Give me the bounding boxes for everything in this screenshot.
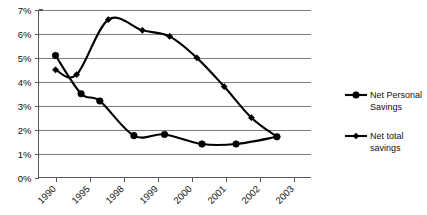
y-tick-label: 2% <box>18 125 32 136</box>
chart-canvas: 0%1%2%3%4%5%6%7% 19901995199819992000200… <box>0 0 427 215</box>
x-tick-label: 1998 <box>103 183 126 206</box>
legend-label-line1: Net total <box>370 131 404 141</box>
y-tick-label: 3% <box>18 101 32 112</box>
y-tick-label: 6% <box>18 29 32 40</box>
x-tick-label: 1990 <box>35 183 58 206</box>
y-tick-label: 5% <box>18 53 32 64</box>
series-1 <box>52 52 280 147</box>
series-line <box>56 18 277 137</box>
x-tick-label: 2001 <box>205 183 228 206</box>
data-point-marker-circle <box>131 132 138 139</box>
legend-label-line1: Net Personal <box>370 90 422 100</box>
chart-legend: Net PersonalSavingsNet totalsavings <box>345 90 422 152</box>
x-tick-label: 2003 <box>273 183 296 206</box>
series-layer <box>52 16 280 147</box>
x-tick-label: 1995 <box>69 183 92 206</box>
x-tick-label: 1999 <box>137 183 160 206</box>
x-tick-label: 2002 <box>239 183 262 206</box>
data-point-marker-circle <box>97 98 104 105</box>
y-axis-tick-labels: 0%1%2%3%4%5%6%7% <box>18 5 32 184</box>
data-point-marker-circle <box>78 90 85 97</box>
data-point-marker-circle <box>199 141 206 148</box>
legend-item-2[interactable]: Net totalsavings <box>345 131 404 152</box>
data-point-marker-circle <box>52 52 59 59</box>
x-tick-label: 2000 <box>171 183 194 206</box>
data-point-marker-circle <box>233 141 240 148</box>
legend-item-1[interactable]: Net PersonalSavings <box>345 90 422 111</box>
legend-label-line2: Savings <box>370 102 403 112</box>
y-tick-label: 1% <box>18 149 32 160</box>
gridlines-group <box>35 11 312 179</box>
legend-marker-diamond <box>353 133 359 139</box>
legend-label-line2: savings <box>370 143 401 153</box>
legend-marker-circle <box>353 92 360 99</box>
y-tick-label: 7% <box>18 5 32 16</box>
data-point-marker-circle <box>161 131 168 138</box>
y-tick-label: 4% <box>18 77 32 88</box>
savings-rate-chart: 0%1%2%3%4%5%6%7% 19901995199819992000200… <box>0 0 427 215</box>
x-axis-tick-labels: 19901995199819992000200120022003 <box>35 183 296 206</box>
y-tick-label: 0% <box>18 173 32 184</box>
data-point-marker-diamond <box>139 27 145 33</box>
